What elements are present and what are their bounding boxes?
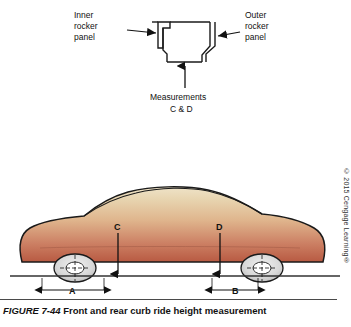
dimension-label-c: C: [114, 222, 121, 232]
copyright-notice: © 2015 Cengage Learning®: [343, 168, 350, 264]
measurements-label-line1: Measurements: [150, 92, 206, 102]
figure-root: Inner rocker panel Outer rocker panel Me…: [0, 0, 351, 327]
dimension-label-b: B: [232, 286, 239, 296]
inner-rocker-label-line3: panel: [74, 32, 95, 42]
inner-rocker-label-line1: Inner: [74, 10, 94, 20]
vehicle-side-view: [10, 187, 340, 290]
figure-caption: FIGURE 7-44 Front and rear curb ride hei…: [3, 305, 333, 317]
dimension-label-d: D: [216, 222, 223, 232]
figure-number: FIGURE 7-44: [3, 305, 61, 316]
figure-caption-text: Front and rear curb ride height measurem…: [63, 305, 266, 316]
outer-rocker-pointer: [218, 32, 240, 36]
inner-rocker-profile: [158, 22, 170, 48]
inner-rocker-pointer: [127, 30, 156, 33]
inner-rocker-flange: [163, 28, 167, 62]
rocker-panel-cross-section: [127, 22, 240, 88]
outer-rocker-label-line1: Outer: [245, 10, 266, 20]
outer-rocker-label-line3: panel: [245, 32, 266, 42]
diagram-svg: Inner rocker panel Outer rocker panel Me…: [0, 0, 351, 327]
outer-rocker-label-line2: rocker: [245, 21, 269, 31]
caption-divider: [0, 299, 337, 300]
dimension-label-a: A: [69, 286, 76, 296]
car-body-outline: [20, 187, 325, 262]
measurements-label-line2: C & D: [170, 104, 193, 114]
inner-rocker-label-line2: rocker: [74, 21, 98, 31]
